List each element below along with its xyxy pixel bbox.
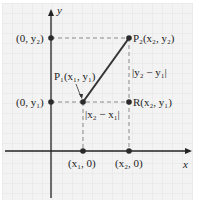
point-0-y1	[48, 99, 54, 105]
horizontal-distance-label: |x₂ − x₁|	[85, 109, 120, 120]
label-x2-0: (x₂, 0)	[115, 158, 143, 169]
point-p1	[80, 99, 86, 105]
label-0-y2: (0, y₂)	[16, 33, 44, 44]
point-x2-0	[126, 148, 132, 154]
point-x1-0	[80, 148, 86, 154]
vertical-distance-label: |y₂ − y₁|	[132, 67, 167, 78]
point-r	[126, 99, 132, 105]
y-axis-label: y	[57, 5, 62, 16]
x-axis-label: x	[183, 159, 188, 170]
point-0-y2	[48, 35, 54, 41]
label-x1-0: (x₁, 0)	[68, 158, 96, 169]
label-0-y1: (0, y₁)	[16, 97, 44, 108]
label-p2: P₂(x₂, y₂)	[133, 33, 174, 44]
point-p2	[126, 35, 132, 41]
label-p1: P₁(x₁, y₁)	[54, 71, 95, 82]
label-r: R(x₂, y₁)	[133, 97, 172, 108]
